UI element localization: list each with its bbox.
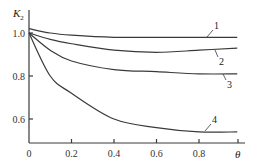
curve-label-1: 1	[207, 20, 219, 37]
y-tick-label: 0.8	[13, 71, 26, 82]
curves	[29, 29, 237, 133]
curve-4	[29, 33, 237, 132]
y-ticks: 1.00.80.6	[13, 28, 34, 125]
y-tick-label: 0.6	[13, 114, 26, 125]
y-axis-title: K2	[12, 7, 24, 22]
x-tick-label: 0.6	[150, 148, 163, 159]
y-tick-label: 1.0	[13, 28, 26, 39]
svg-text:4: 4	[212, 114, 217, 125]
x-ticks: 00.20.40.60.8	[27, 139, 206, 159]
x-tick-label: 0.4	[108, 148, 121, 159]
curve-label-4: 4	[205, 114, 217, 131]
x-tick-label: 0	[27, 148, 32, 159]
x-axis-title: θ	[235, 148, 241, 160]
curve-1	[29, 29, 237, 38]
curve-label-3: 3	[223, 74, 232, 90]
curve-2	[29, 33, 237, 52]
x-tick-label: 0.2	[65, 148, 78, 159]
curve-3	[29, 33, 237, 74]
svg-text:3: 3	[227, 79, 232, 90]
svg-text:1: 1	[214, 20, 219, 31]
curve-label-2: 2	[215, 50, 224, 67]
x-tick-label: 0.8	[193, 148, 206, 159]
svg-text:2: 2	[219, 56, 224, 67]
chart: K2 1.00.80.6 00.20.40.60.8 θ 1 2 3 4	[0, 0, 257, 165]
